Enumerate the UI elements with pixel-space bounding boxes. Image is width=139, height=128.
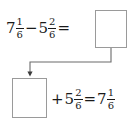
top-term2-denominator: 6 — [48, 30, 56, 41]
top-term2-whole: 5 — [39, 21, 49, 36]
bottom-term-numerator: 2 — [74, 88, 82, 99]
plus-operator: + — [50, 92, 65, 107]
top-equation: 7 1 6 − 5 2 6 = — [6, 17, 71, 40]
arrow-path — [30, 48, 111, 74]
bottom-result-fraction: 1 6 — [107, 88, 115, 111]
top-term1-denominator: 6 — [16, 30, 24, 41]
top-answer-box[interactable] — [95, 10, 127, 48]
minus-operator: − — [24, 21, 39, 36]
bottom-result-numerator: 1 — [107, 88, 115, 99]
bottom-equation: + 5 2 6 = 7 1 6 — [50, 88, 115, 111]
bottom-term-whole: 5 — [65, 92, 75, 107]
worksheet-canvas: 7 1 6 − 5 2 6 = + 5 2 6 = 7 1 6 — [0, 0, 139, 128]
top-term1-numerator: 1 — [16, 17, 24, 28]
top-term2-numerator: 2 — [48, 17, 56, 28]
top-term2-fraction: 2 6 — [48, 17, 56, 40]
top-term1-whole: 7 — [6, 21, 16, 36]
equals-operator: = — [83, 92, 98, 107]
bottom-result-denominator: 6 — [107, 101, 115, 112]
top-term1-fraction: 1 6 — [16, 17, 24, 40]
equals-operator: = — [56, 21, 71, 36]
bottom-term-fraction: 2 6 — [74, 88, 82, 111]
bottom-answer-box[interactable] — [12, 78, 47, 118]
bottom-result-whole: 7 — [97, 92, 107, 107]
bottom-term-denominator: 6 — [74, 101, 82, 112]
